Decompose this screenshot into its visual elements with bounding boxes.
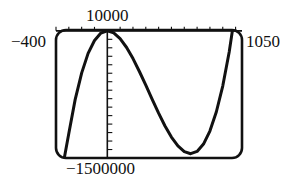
graph-screen [0, 0, 293, 180]
function-curve [64, 30, 232, 158]
